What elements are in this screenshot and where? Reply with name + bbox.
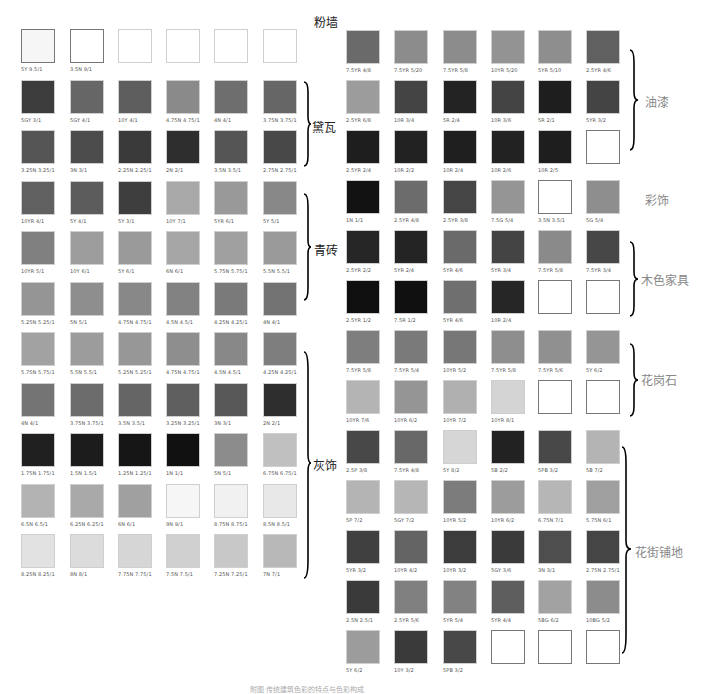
munsell-code: 7.5YR 5/8 <box>443 67 479 73</box>
munsell-code: 7.5YR 5/6 <box>538 367 574 373</box>
munsell-code: 10YR 3/2 <box>443 567 479 573</box>
munsell-code: 7.5YR 4/8 <box>394 467 430 473</box>
color-swatch-cell <box>538 280 574 317</box>
color-swatch-cell: 3.5N 9/1 <box>70 29 106 72</box>
color-swatch <box>491 130 525 164</box>
munsell-code: 7.5R 1/2 <box>394 317 430 323</box>
munsell-code: 1N 1/1 <box>346 217 382 223</box>
color-swatch-cell: 5YR 3/4 <box>491 230 527 273</box>
munsell-code: 5GY 3/1 <box>21 117 57 123</box>
color-swatch-cell: 5GY 4/1 <box>70 80 106 123</box>
munsell-code: 3N 3/1 <box>214 420 250 426</box>
color-swatch-cell: 10YR 3/2 <box>443 530 479 573</box>
color-swatch-cell: 4.5N 4.5/1 <box>166 282 202 325</box>
color-swatch <box>214 130 248 164</box>
color-swatch <box>21 282 55 316</box>
munsell-code: 1N 1/1 <box>166 470 202 476</box>
color-swatch-cell: 5N 5/1 <box>214 433 250 476</box>
color-swatch-cell: 4.25N 4.25/1 <box>214 282 250 325</box>
munsell-code: 6N 6/1 <box>166 268 202 274</box>
color-swatch <box>118 282 152 316</box>
color-swatch-cell: 5P 7/2 <box>346 480 382 523</box>
color-swatch <box>394 330 428 364</box>
munsell-code: 4N 4/1 <box>263 319 299 325</box>
munsell-code: 5Y 9.5/1 <box>21 66 57 72</box>
munsell-code: 7.5N 7.5/1 <box>166 571 202 577</box>
color-swatch-cell: 10Y 7/1 <box>166 181 202 224</box>
munsell-code: 5YR 4/6 <box>443 317 479 323</box>
color-swatch <box>214 29 248 63</box>
color-swatch <box>346 630 380 664</box>
color-swatch <box>538 530 572 564</box>
munsell-code: 1.5N 1.5/1 <box>70 470 106 476</box>
color-swatch-cell: 10YR 5/2 <box>443 330 479 373</box>
color-swatch-cell: 7.5YR 5/6 <box>538 330 574 373</box>
color-swatch-cell: 7.5YR 5/20 <box>394 30 430 73</box>
color-swatch <box>538 80 572 114</box>
color-swatch <box>491 230 525 264</box>
munsell-code: 5GY 4/1 <box>70 117 106 123</box>
munsell-code: 2.5YR 1/2 <box>346 317 382 323</box>
munsell-code: 5YR 4/4 <box>491 617 527 623</box>
color-swatch <box>70 80 104 114</box>
munsell-code: 5R 2/1 <box>538 117 574 123</box>
munsell-code: 10R 2/2 <box>394 167 430 173</box>
color-swatch-cell: 2.5P 3/8 <box>346 430 382 473</box>
color-swatch-cell: 3.5N 3.5/1 <box>538 180 574 223</box>
color-swatch-cell: 8N 8/1 <box>70 534 106 577</box>
munsell-code: 3.5N 3.5/1 <box>214 167 250 173</box>
color-swatch-cell: 6N 6/1 <box>118 484 154 527</box>
color-swatch-cell: 5N 5/1 <box>70 282 106 325</box>
color-swatch <box>21 130 55 164</box>
munsell-code: 7.5YR 3/4 <box>586 267 622 273</box>
munsell-code: 8.5N 8.5/1 <box>263 521 299 527</box>
color-swatch <box>118 130 152 164</box>
color-swatch <box>538 330 572 364</box>
color-swatch-cell: 10YR 4/2 <box>394 530 430 573</box>
color-swatch-cell: 7.5YR 5/8 <box>346 330 382 373</box>
munsell-code: 2.5YR 5/6 <box>394 617 430 623</box>
munsell-code: 5YR 5/4 <box>443 617 479 623</box>
color-swatch <box>263 332 297 366</box>
munsell-code: 5.25N 5.25/1 <box>21 319 57 325</box>
color-swatch <box>491 530 525 564</box>
color-swatch-cell: 5YR 6/1 <box>214 181 250 224</box>
munsell-code: 3.25N 3.25/1 <box>166 420 202 426</box>
color-swatch-cell: 5B 2/2 <box>491 430 527 473</box>
color-swatch-cell: 5BG 6/2 <box>538 580 574 623</box>
color-swatch <box>346 180 380 214</box>
color-swatch <box>118 332 152 366</box>
color-swatch-cell: 1N 1/1 <box>346 180 382 223</box>
color-swatch <box>586 630 620 664</box>
color-swatch <box>263 282 297 316</box>
color-swatch <box>491 280 525 314</box>
munsell-code: 5Y 3/1 <box>118 218 154 224</box>
munsell-code: 5N 5/1 <box>70 319 106 325</box>
color-swatch-cell <box>118 29 154 66</box>
color-swatch-cell: 3N 3/1 <box>70 130 106 173</box>
color-swatch <box>586 130 620 164</box>
color-swatch-cell: 5GY 3/6 <box>491 530 527 573</box>
color-swatch-cell: 4N 4/1 <box>263 282 299 325</box>
munsell-code: 10R 2/6 <box>491 167 527 173</box>
color-swatch <box>491 180 525 214</box>
munsell-code: 5.75N 5.75/1 <box>21 369 57 375</box>
color-swatch-cell: 5Y 6/2 <box>586 330 622 373</box>
color-swatch-cell: 1.25N 1.25/1 <box>118 433 154 476</box>
color-swatch <box>586 530 620 564</box>
color-swatch <box>443 630 477 664</box>
color-swatch-cell: 10YR 6/2 <box>394 380 430 423</box>
munsell-code: 5YR 3/2 <box>586 117 622 123</box>
color-swatch-cell <box>263 29 299 66</box>
color-swatch-cell: 7.5YR 5/8 <box>443 30 479 73</box>
color-swatch-cell: 2.25N 2.25/1 <box>118 130 154 173</box>
color-swatch-cell <box>586 380 622 417</box>
munsell-code: 4.5N 4.5/1 <box>166 319 202 325</box>
color-swatch-cell: 6.25N 6.25/1 <box>70 484 106 527</box>
munsell-code: 2.25N 2.25/1 <box>118 167 154 173</box>
munsell-code: 2.5YR 6/8 <box>346 117 382 123</box>
color-swatch <box>443 30 477 64</box>
color-swatch <box>118 181 152 215</box>
color-swatch <box>443 580 477 614</box>
color-swatch <box>346 530 380 564</box>
